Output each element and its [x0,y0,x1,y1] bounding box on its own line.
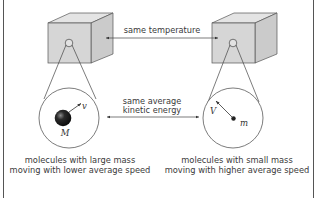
left-caption-line2: moving with lower average speed [10,165,151,175]
temperature-label: same temperature [124,25,200,35]
velocity-label: v [82,101,87,111]
diagram-canvas: same temperature v M V m same average ki… [0,0,317,198]
right-caption-line1: molecules with small mass [181,155,293,165]
mass-label: m [240,118,248,128]
velocity-label: V [210,106,217,116]
energy-label-line2: kinetic energy [123,105,182,115]
energy-connector: same average kinetic energy [107,96,199,117]
sample-region-icon [229,39,237,47]
mass-label: M [60,128,70,138]
right-container-cube [212,13,277,63]
large-molecule-icon [55,110,72,127]
left-molecule-view: v M [39,88,99,148]
sample-region-icon [65,39,73,47]
temperature-connector: same temperature [106,25,218,38]
right-molecule-view: V m [203,88,263,148]
right-caption-line2: moving with higher average speed [165,165,310,175]
left-container-cube [48,13,113,63]
left-caption-line1: molecules with large mass [25,155,135,165]
